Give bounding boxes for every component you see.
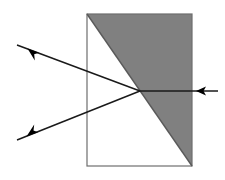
ray-diagram-canvas [0,0,225,180]
ray-diagram-container [0,0,225,180]
